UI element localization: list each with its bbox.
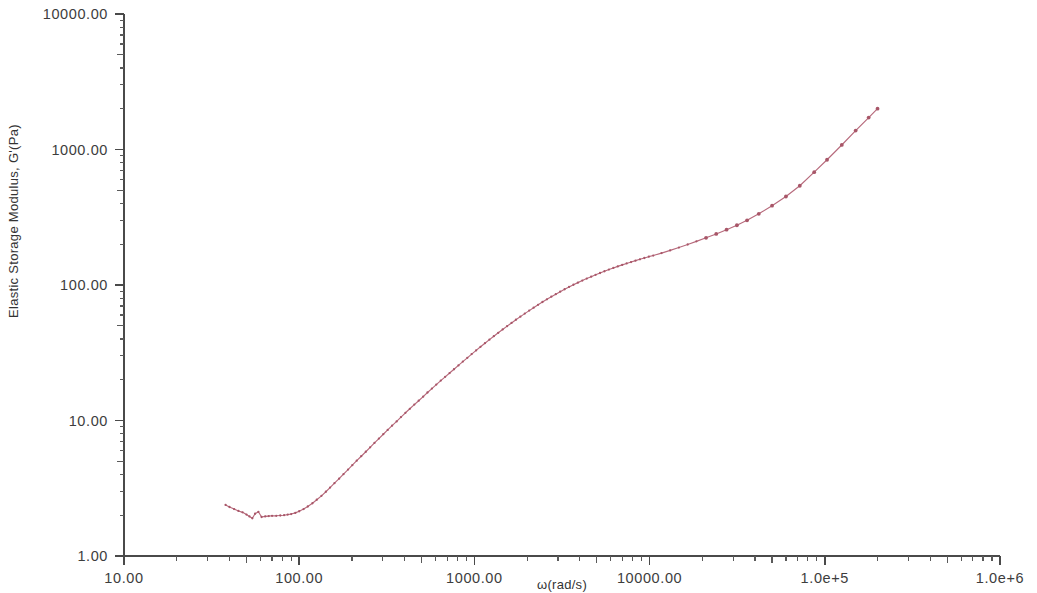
data-point — [493, 335, 495, 337]
data-point — [812, 170, 816, 174]
data-point — [634, 260, 636, 262]
data-point — [519, 316, 521, 318]
data-point — [735, 223, 739, 227]
data-point — [555, 293, 557, 295]
data-point — [524, 312, 526, 314]
data-point — [254, 513, 256, 515]
data-point — [251, 517, 253, 519]
data-point — [537, 304, 539, 306]
x-tick-label: 1000.00 — [446, 570, 503, 586]
y-axis-tick-labels: 1.0010.00100.001000.0010000.00 — [43, 6, 108, 564]
data-point — [854, 129, 858, 133]
data-point — [515, 319, 517, 321]
data-point — [453, 368, 455, 370]
line-chart: 1.0010.00100.001000.0010000.00 10.00100.… — [0, 0, 1037, 593]
data-point — [612, 267, 614, 269]
data-point — [643, 257, 645, 259]
data-point — [271, 515, 273, 517]
data-point — [426, 391, 428, 393]
data-point — [333, 482, 335, 484]
x-tick-label: 1.0e+6 — [976, 570, 1024, 586]
data-point — [484, 342, 486, 344]
y-tick-label: 1.00 — [77, 548, 108, 564]
data-point — [257, 511, 259, 513]
data-point — [497, 332, 499, 334]
data-point — [351, 464, 353, 466]
data-point — [462, 360, 464, 362]
data-point — [669, 249, 671, 251]
data-point — [510, 322, 512, 324]
data-point — [563, 288, 565, 290]
data-point — [418, 400, 420, 402]
x-axis-title: ω(rad/s) — [537, 577, 587, 592]
data-point — [825, 158, 829, 162]
data-point — [391, 425, 393, 427]
y-tick-label: 100.00 — [60, 277, 108, 293]
data-point — [400, 416, 402, 418]
data-point — [603, 270, 605, 272]
data-point — [275, 515, 277, 517]
data-point — [770, 204, 774, 208]
y-tick-label: 1000.00 — [51, 142, 108, 158]
data-point — [621, 264, 623, 266]
data-point — [311, 502, 313, 504]
data-series — [224, 107, 879, 520]
y-tick-label: 10.00 — [69, 413, 108, 429]
data-point — [302, 508, 304, 510]
data-point — [466, 357, 468, 359]
data-point — [599, 272, 601, 274]
data-point — [559, 291, 561, 293]
axes — [124, 14, 1000, 556]
axis-ticks — [115, 14, 1000, 565]
data-point — [264, 515, 266, 517]
data-point — [626, 262, 628, 264]
data-point — [396, 420, 398, 422]
data-point — [594, 274, 596, 276]
x-tick-label: 10.00 — [104, 570, 143, 586]
data-point — [506, 325, 508, 327]
data-point — [475, 349, 477, 351]
data-point — [648, 256, 650, 258]
data-point — [268, 515, 270, 517]
data-point — [241, 511, 243, 513]
data-point — [435, 383, 437, 385]
data-point — [387, 429, 389, 431]
data-point — [431, 387, 433, 389]
data-point — [590, 276, 592, 278]
data-point — [279, 514, 281, 516]
x-tick-label: 100.00 — [275, 570, 323, 586]
x-tick-label: 10000.00 — [617, 570, 682, 586]
data-point — [342, 473, 344, 475]
data-point — [457, 364, 459, 366]
data-point — [479, 346, 481, 348]
data-point — [586, 277, 588, 279]
data-point — [704, 236, 708, 240]
data-point — [488, 339, 490, 341]
data-point — [532, 307, 534, 309]
data-point — [298, 510, 300, 512]
data-point — [382, 433, 384, 435]
data-point — [652, 254, 654, 256]
data-point — [329, 486, 331, 488]
data-point — [248, 515, 250, 517]
data-point — [502, 328, 504, 330]
data-point — [320, 495, 322, 497]
data-point — [528, 309, 530, 311]
data-point — [347, 468, 349, 470]
data-point — [378, 437, 380, 439]
data-point — [360, 455, 362, 457]
data-point — [413, 403, 415, 405]
data-point — [228, 506, 230, 508]
data-point — [608, 268, 610, 270]
data-point — [316, 499, 318, 501]
chart-container: 1.0010.00100.001000.0010000.00 10.00100.… — [0, 0, 1037, 593]
data-point — [444, 376, 446, 378]
data-point — [356, 460, 358, 462]
data-point — [745, 218, 749, 222]
data-point — [294, 512, 296, 514]
data-point — [290, 513, 292, 515]
data-point — [725, 228, 729, 232]
data-point — [867, 116, 871, 120]
data-point — [260, 516, 262, 518]
data-point — [409, 408, 411, 410]
